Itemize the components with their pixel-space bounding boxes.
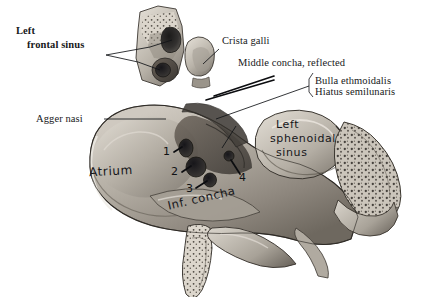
specimen-body: [90, 6, 401, 297]
marker-4: 4: [239, 172, 246, 183]
marker-1: 1: [163, 146, 170, 157]
label-agger-nasi: Agger nasi: [36, 113, 83, 125]
label-sphenoidal-sinus-line1: Left: [276, 119, 299, 132]
opening-1: [179, 139, 193, 157]
label-left-frontal-sinus-line2: frontal sinus: [27, 39, 84, 51]
label-crista-galli: Crista galli: [222, 35, 270, 47]
label-middle-concha-reflected: Middle concha, reflected: [238, 57, 345, 69]
label-bulla-ethmoidalis: Bulla ethmoidalis: [315, 75, 391, 87]
label-left-frontal-sinus-line1: Left: [16, 25, 35, 37]
opening-4: [224, 151, 234, 161]
opening-3: [204, 173, 217, 187]
label-sphenoidal-sinus-line2: sphenoidal: [270, 133, 336, 146]
marker-2: 2: [171, 166, 178, 177]
label-sphenoidal-sinus-line3: sinus: [276, 147, 307, 160]
label-atrium: Atrium: [89, 164, 133, 179]
opening-2: [186, 157, 206, 177]
label-hiatus-semilunaris: Hiatus semilunaris: [315, 86, 395, 98]
marker-3: 3: [186, 183, 193, 194]
anatomical-figure: Left frontal sinus Agger nasi Crista gal…: [0, 0, 442, 297]
